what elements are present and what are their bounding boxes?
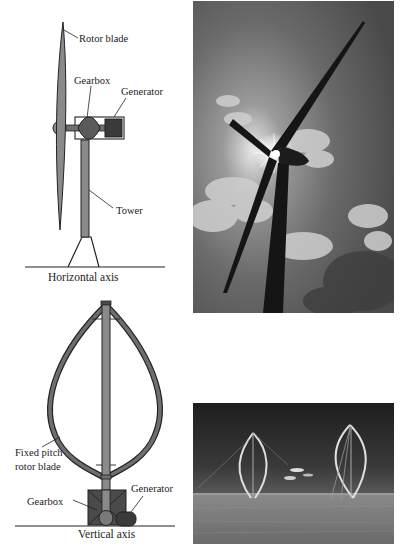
generator <box>116 512 136 526</box>
leader-line-generator <box>131 496 143 512</box>
mast-cap <box>101 301 111 305</box>
leader-line-generator <box>114 98 126 117</box>
rotor-blade <box>56 22 65 230</box>
label-blade-line1: Fixed pitch <box>15 447 63 459</box>
leader-line-tower <box>89 190 113 208</box>
tower-base <box>68 237 99 267</box>
label-blade-line2: rotor blade <box>15 461 61 473</box>
caption-horizontal-axis: Horizontal axis <box>48 271 119 283</box>
leader-line-rotor <box>64 30 78 38</box>
leader-line-gearbox <box>87 86 91 118</box>
tower <box>81 140 89 237</box>
label-tower: Tower <box>116 205 143 217</box>
label-rotor-blade: Rotor blade <box>79 33 128 45</box>
label-gearbox-vertical: Gearbox <box>27 496 63 508</box>
gearbox <box>99 511 113 526</box>
vertical-axis-diagram <box>0 290 200 554</box>
photo-vertical-turbines <box>193 403 394 544</box>
photo-horizontal-turbine <box>193 1 394 313</box>
mast-collar <box>101 475 111 479</box>
label-gearbox: Gearbox <box>74 75 110 87</box>
caption-vertical-axis: Vertical axis <box>78 528 135 540</box>
label-generator-vertical: Generator <box>131 483 173 495</box>
label-generator: Generator <box>121 86 163 98</box>
generator <box>105 119 122 137</box>
